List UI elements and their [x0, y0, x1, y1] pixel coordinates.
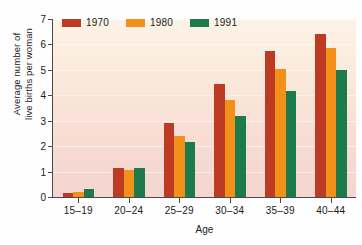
- bar-1970-15–19[interactable]: [63, 193, 74, 197]
- legend-item-1980[interactable]: 1980: [126, 17, 173, 28]
- bar-1991-25–29[interactable]: [185, 142, 196, 197]
- legend-item-1970[interactable]: 1970: [62, 17, 109, 28]
- bar-1980-35–39[interactable]: [275, 69, 286, 197]
- x-axis-tickmark: [78, 198, 79, 203]
- x-axis-tickmark: [280, 198, 281, 203]
- bar-1970-20–24[interactable]: [113, 168, 124, 197]
- bar-1980-25–29[interactable]: [174, 136, 185, 197]
- x-axis-tick-label: 40–44: [301, 205, 361, 216]
- y-axis-tick-label: 1: [30, 166, 46, 177]
- legend-swatch-icon: [62, 19, 81, 27]
- y-axis-tickmark: [48, 121, 52, 122]
- bar-1991-20–24[interactable]: [134, 168, 145, 197]
- legend-label: 1970: [86, 17, 109, 28]
- bar-group: [63, 19, 95, 197]
- y-axis-tickmark: [48, 172, 52, 173]
- bar-group: [315, 19, 347, 197]
- y-axis-tickmark: [48, 19, 52, 20]
- x-axis-tickmark: [179, 198, 180, 203]
- bars-layer: [53, 19, 356, 197]
- legend-swatch-icon: [190, 19, 209, 27]
- bar-1980-15–19[interactable]: [73, 192, 84, 197]
- y-axis-tickmark: [48, 44, 52, 45]
- bar-group: [164, 19, 196, 197]
- x-axis-line: [52, 197, 356, 198]
- bar-1980-40–44[interactable]: [326, 48, 337, 197]
- y-axis-tick-label: 2: [30, 141, 46, 152]
- bar-group: [214, 19, 246, 197]
- y-axis-tick-label: 0: [30, 192, 46, 203]
- y-axis-tickmark: [48, 197, 52, 198]
- bar-1991-40–44[interactable]: [336, 70, 347, 197]
- y-axis-tick-label: 4: [30, 90, 46, 101]
- bar-1970-35–39[interactable]: [265, 51, 276, 197]
- x-axis-title: Age: [53, 224, 356, 235]
- x-axis-tickmark: [230, 198, 231, 203]
- y-axis-tickmark: [48, 95, 52, 96]
- y-axis-tick-labels: 01234567: [30, 14, 46, 204]
- bar-1980-20–24[interactable]: [124, 170, 135, 197]
- bar-1970-25–29[interactable]: [164, 123, 175, 197]
- x-axis-tickmark: [129, 198, 130, 203]
- legend-label: 1980: [150, 17, 173, 28]
- y-axis-tick-label: 7: [30, 14, 46, 25]
- y-axis-tick-label: 3: [30, 115, 46, 126]
- bar-group: [265, 19, 297, 197]
- legend-label: 1991: [214, 17, 237, 28]
- y-axis-tickmark: [48, 146, 52, 147]
- bar-1991-15–19[interactable]: [84, 189, 95, 197]
- bar-1970-40–44[interactable]: [315, 34, 326, 197]
- legend-swatch-icon: [126, 19, 145, 27]
- plot-area: [53, 19, 356, 197]
- bar-1980-30–34[interactable]: [225, 100, 236, 197]
- bar-1991-35–39[interactable]: [286, 91, 297, 197]
- x-axis-tickmark: [331, 198, 332, 203]
- y-axis-tick-label: 5: [30, 64, 46, 75]
- legend: 197019801991: [62, 17, 237, 28]
- bar-chart: Average number of live births per woman …: [0, 0, 362, 245]
- y-axis-tickmark: [48, 70, 52, 71]
- bar-group: [113, 19, 145, 197]
- y-axis-tick-label: 6: [30, 39, 46, 50]
- bar-1970-30–34[interactable]: [214, 84, 225, 197]
- legend-item-1991[interactable]: 1991: [190, 17, 237, 28]
- bar-1991-30–34[interactable]: [235, 116, 246, 197]
